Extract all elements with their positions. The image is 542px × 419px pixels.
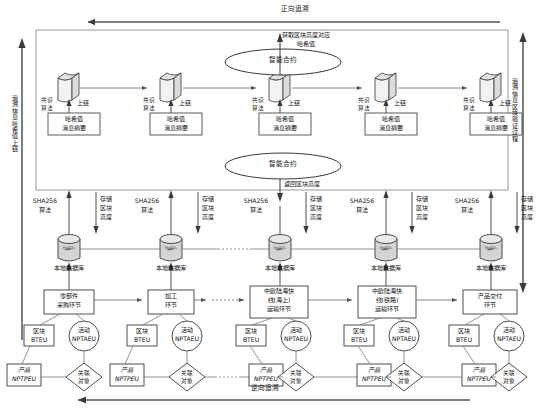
block-icons xyxy=(58,73,501,102)
store-height-label-2-line2: 区块 xyxy=(202,205,222,212)
db-logo-text-5: MySQL xyxy=(480,246,502,250)
hash-label-4-line1: 哈希值 xyxy=(365,116,417,123)
db-logo-text-2: MySQL xyxy=(160,246,182,250)
block-entity-2-line2: BTEU xyxy=(127,337,157,344)
smart-contract-upper-label: 智能合约 xyxy=(253,57,313,64)
activity-entity-5-line2: NPTAEU xyxy=(491,336,527,343)
block-entity-1-line1: 区块 xyxy=(24,328,54,335)
onchain-label-5: 上链 xyxy=(495,100,515,107)
store-height-label-1-line2: 区块 xyxy=(100,205,120,212)
relation-entity-2-line1: 关联 xyxy=(175,370,199,376)
block-entity-3-line1: 区块 xyxy=(236,328,266,335)
stage-2-name-line1: 加工 xyxy=(148,293,194,300)
store-height-label-5-line1: 存储 xyxy=(521,196,541,203)
store-height-label-1-line3: 高度 xyxy=(100,214,120,221)
sha256-label-2-line1: SHA256 xyxy=(126,198,168,205)
stage-1-name-line2: 采购环节 xyxy=(44,302,94,309)
activity-entity-3-line1: 活动 xyxy=(281,327,311,334)
sha256-label-4-line2: 算法 xyxy=(341,207,383,214)
db-label-5: 本地数据库 xyxy=(466,265,516,272)
sha256-label-5-line1: SHA256 xyxy=(446,198,488,205)
hash-label-3-line2: 消息摘要 xyxy=(259,125,311,132)
stage-2-name-line2: 环节 xyxy=(148,302,194,309)
block-icon-4 xyxy=(375,73,396,102)
stage-4-name-line2: 线(铁路) xyxy=(358,297,416,304)
relation-entity-5-line1: 关联 xyxy=(497,370,521,376)
hash-label-2-line2: 消息摘要 xyxy=(150,125,202,132)
reverse-trace-label: 逆向追溯 xyxy=(235,385,295,392)
onchain-label-4: 上链 xyxy=(390,100,410,107)
store-height-label-3-line1: 存储 xyxy=(310,196,330,203)
store-height-label-2-line3: 高度 xyxy=(202,214,222,221)
store-height-label-2-line1: 存储 xyxy=(202,196,222,203)
right-axis-label: 追溯信息区块验证过程 xyxy=(505,78,517,142)
block-entity-5-line2: BTEU xyxy=(449,337,479,344)
left-axis-label: 追溯信息哈希值上链 xyxy=(5,95,17,153)
block-entity-4-line1: 区块 xyxy=(344,328,374,335)
hash-label-4-line2: 消息摘要 xyxy=(365,125,417,132)
stage-3-name-line3: 运输环节 xyxy=(250,306,308,313)
consensus-label-2-line2: 算法 xyxy=(138,105,160,111)
block-entity-1-line2: BTEU xyxy=(24,337,54,344)
db-label-4: 本地数据库 xyxy=(361,265,411,272)
stage-3-name-line2: 线(海上) xyxy=(250,297,308,304)
consensus-label-2-line1: 共识 xyxy=(138,97,160,103)
db-label-3: 本地数据库 xyxy=(255,265,305,272)
sha256-label-3-line2: 算法 xyxy=(235,207,277,214)
block-icon-5 xyxy=(480,73,501,102)
activity-entity-1-line2: NPTAEU xyxy=(66,336,102,343)
relation-entity-5-line2: 对象 xyxy=(497,378,521,384)
hash-label-2-line1: 哈希值 xyxy=(150,116,202,123)
onchain-label-1: 上链 xyxy=(73,100,93,107)
get-block-hash-label-line1: 获取区块高度对应 xyxy=(282,32,354,39)
stage-4-name-line1: 中欧陆海快 xyxy=(358,288,416,295)
store-height-label-3-line2: 区块 xyxy=(310,205,330,212)
entity-relation-2 xyxy=(169,363,205,391)
block-entity-2-line1: 区块 xyxy=(127,328,157,335)
product-entity-4-line2: NPTPEU xyxy=(357,376,391,383)
relation-entity-4-line2: 对象 xyxy=(392,378,416,384)
reverse-trace-arrow xyxy=(78,396,470,403)
relation-entity-4-line1: 关联 xyxy=(392,370,416,376)
block-entity-3-line2: BTEU xyxy=(236,337,266,344)
block-icon-1 xyxy=(58,73,79,102)
product-entity-2-line1: 产品 xyxy=(110,367,144,374)
activity-entity-4-line1: 活动 xyxy=(389,327,419,334)
product-entity-5-line1: 产品 xyxy=(462,367,496,374)
store-height-label-5-line2: 区块 xyxy=(521,205,541,212)
right-axis-arrow xyxy=(519,32,526,293)
relation-entity-3-line1: 关联 xyxy=(284,370,308,376)
store-height-label-4-line3: 高度 xyxy=(416,214,436,221)
return-block-height-label: 返回区块高度 xyxy=(284,181,344,188)
product-entity-1-line2: NPTPEU xyxy=(7,376,41,383)
product-entity-5-line2: NPTPEU xyxy=(462,376,496,383)
activity-entity-2-line1: 活动 xyxy=(172,327,202,334)
db-label-2: 本地数据库 xyxy=(146,265,196,272)
product-entity-4-line1: 产品 xyxy=(357,367,391,374)
store-height-label-5-line3: 高度 xyxy=(521,214,541,221)
left-axis-arrow xyxy=(18,38,25,340)
consensus-label-1-line2: 算法 xyxy=(36,105,58,111)
block-entity-5-line1: 区块 xyxy=(449,328,479,335)
stage-1-name-line1: 零部件 xyxy=(44,293,94,300)
activity-entity-2-line2: NPTAEU xyxy=(169,336,205,343)
stage-5-name-line2: 环节 xyxy=(463,302,517,309)
hash-label-1-line1: 哈希值 xyxy=(48,116,100,123)
stage-4-name-line3: 运输环节 xyxy=(358,306,416,313)
product-entity-3-line2: NPTPEU xyxy=(249,376,283,383)
diagram-canvas: 正向追溯 逆向追溯 追溯信息哈希值上链 追溯信息区块验证过程 智能合约 智能合约… xyxy=(0,0,542,419)
activity-entity-4-line2: NPTAEU xyxy=(386,336,422,343)
consensus-label-1-line1: 共识 xyxy=(36,97,58,103)
consensus-label-5-line2: 算法 xyxy=(458,105,480,111)
db-logo-text-4: MySQL xyxy=(375,246,397,250)
forward-trace-arrow xyxy=(88,19,500,26)
product-entity-3-line1: 产品 xyxy=(249,367,283,374)
forward-trace-label: 正向追溯 xyxy=(265,6,325,13)
db-logo-text-1: MySQL xyxy=(58,246,80,250)
block-icon-3 xyxy=(269,73,290,102)
store-height-label-3-line3: 高度 xyxy=(310,214,330,221)
sha256-label-1-line2: 算法 xyxy=(24,207,66,214)
relation-entity-2-line2: 对象 xyxy=(175,378,199,384)
block-entity-4-line2: BTEU xyxy=(344,337,374,344)
sha256-label-1-line1: SHA256 xyxy=(24,198,66,205)
